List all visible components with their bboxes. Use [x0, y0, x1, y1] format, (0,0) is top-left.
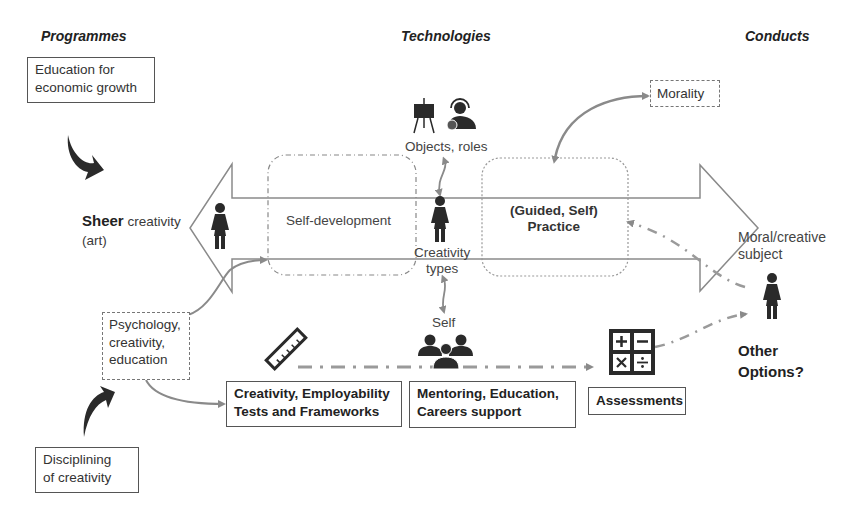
headset-person-icon — [447, 99, 476, 130]
psychology-box: Psychology, creativity, education — [102, 312, 190, 380]
main-double-arrow — [190, 164, 758, 292]
sheer-creativity-label: Sheer creativity — [82, 212, 181, 230]
programme-education-box: Education for economic growth — [27, 57, 155, 103]
guided-practice-line2: Practice — [510, 219, 598, 235]
header-programmes: Programmes — [41, 28, 127, 45]
moral-creative-subject-label: Moral/creative subject — [738, 229, 826, 263]
other-options-label: Other Options? — [738, 340, 804, 382]
programme-education-line2: economic growth — [35, 79, 147, 97]
psychology-line1: Psychology, — [109, 316, 183, 334]
header-technologies: Technologies — [401, 28, 491, 45]
creativity-types-line2: types — [414, 261, 470, 277]
tests-frameworks-box: Creativity, Employability Tests and Fram… — [226, 381, 402, 427]
calculator-icon — [609, 329, 655, 375]
curved-arrow-icon — [68, 135, 104, 180]
mentoring-box: Mentoring, Education, Careers support — [409, 381, 576, 428]
ruler-icon — [266, 329, 306, 369]
guided-practice-line1: (Guided, Self) — [510, 203, 598, 219]
creativity-types-line1: Creativity — [414, 245, 470, 261]
tests-line2: Tests and Frameworks — [234, 403, 394, 421]
person-icon — [763, 273, 781, 319]
psychology-line2: creativity, — [109, 334, 183, 352]
programme-disciplining-line2: of creativity — [43, 469, 131, 487]
self-label: Self — [432, 315, 455, 331]
assessments-box: Assessments — [588, 387, 686, 415]
curved-arrow-icon — [84, 386, 115, 437]
other-line1: Other — [738, 340, 804, 361]
art-label: (art) — [82, 233, 107, 249]
programme-disciplining-line1: Disciplining — [43, 451, 131, 469]
objects-roles-label: Objects, roles — [405, 139, 488, 155]
other-line2: Options? — [738, 361, 804, 382]
creativity-text: creativity — [124, 214, 181, 229]
guided-practice-label: (Guided, Self) Practice — [510, 203, 598, 236]
person-icon — [431, 196, 449, 242]
mentoring-line1: Mentoring, Education, — [417, 385, 568, 403]
person-icon — [211, 203, 229, 249]
sheer-bold: Sheer — [82, 212, 124, 229]
header-conducts: Conducts — [745, 28, 810, 45]
self-development-label: Self-development — [286, 213, 391, 229]
programme-disciplining-box: Disciplining of creativity — [35, 447, 139, 493]
psychology-line3: education — [109, 351, 183, 369]
morality-box: Morality — [650, 80, 720, 107]
subject-line2: subject — [738, 246, 826, 263]
mentoring-line2: Careers support — [417, 403, 568, 421]
programme-education-line1: Education for — [35, 61, 147, 79]
group-icon — [418, 335, 473, 370]
subject-line1: Moral/creative — [738, 229, 826, 246]
easel-icon — [414, 98, 434, 133]
creativity-types-label: Creativity types — [414, 245, 470, 278]
tests-line1: Creativity, Employability — [234, 385, 394, 403]
